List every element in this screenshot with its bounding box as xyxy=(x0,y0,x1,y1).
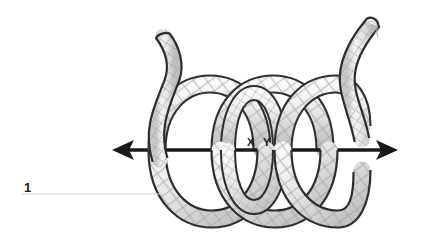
figure-number-label: 1 xyxy=(24,180,31,195)
coil-front-segments xyxy=(149,150,371,228)
rope-tail-right xyxy=(340,18,379,142)
label-point-y: Y xyxy=(263,136,271,148)
figure-container: X Y 1 xyxy=(0,0,421,236)
label-point-x: X xyxy=(247,136,255,148)
coiled-rope-diagram: X Y 1 xyxy=(0,0,421,236)
coil-back-segments xyxy=(149,76,371,151)
